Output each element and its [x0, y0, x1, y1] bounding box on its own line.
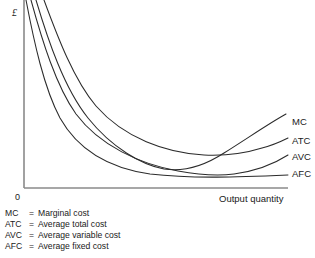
curve-label-avc: AVC: [292, 151, 311, 162]
curve-mc: [36, 0, 286, 170]
legend-abbr-atc: ATC: [5, 219, 29, 230]
legend-description-atc: Average total cost: [38, 219, 255, 230]
legend-item-avc: AVC = Average variable cost: [5, 230, 255, 241]
legend-equals-afc: =: [29, 241, 38, 252]
legend-abbr-afc: AFC: [5, 241, 29, 252]
legend-abbr-mc: MC: [5, 208, 29, 219]
legend-description-avc: Average variable cost: [38, 230, 255, 241]
legend-item-afc: AFC = Average fixed cost: [5, 241, 255, 252]
legend-item-atc: ATC = Average total cost: [5, 219, 255, 230]
legend-equals-atc: =: [29, 219, 38, 230]
curve-label-afc: AFC: [292, 168, 311, 179]
curve-avc: [31, 0, 288, 175]
legend-equals-mc: =: [29, 208, 38, 219]
y-axis-label: £: [12, 7, 17, 18]
curve-label-mc: MC: [292, 116, 307, 127]
legend: MC = Marginal cost ATC = Average total c…: [5, 208, 255, 252]
origin-label: 0: [15, 192, 20, 202]
legend-description-mc: Marginal cost: [38, 208, 255, 219]
legend-item-mc: MC = Marginal cost: [5, 208, 255, 219]
curve-atc: [44, 0, 288, 155]
legend-equals-avc: =: [29, 230, 38, 241]
x-axis-label: Output quantity: [219, 193, 284, 204]
legend-description-afc: Average fixed cost: [38, 241, 255, 252]
cost-curves-figure: MC ATC AVC AFC £ 0 Output quantity MC = …: [0, 0, 315, 258]
curve-afc: [26, 0, 288, 177]
legend-abbr-avc: AVC: [5, 230, 29, 241]
curve-label-atc: ATC: [292, 135, 310, 146]
